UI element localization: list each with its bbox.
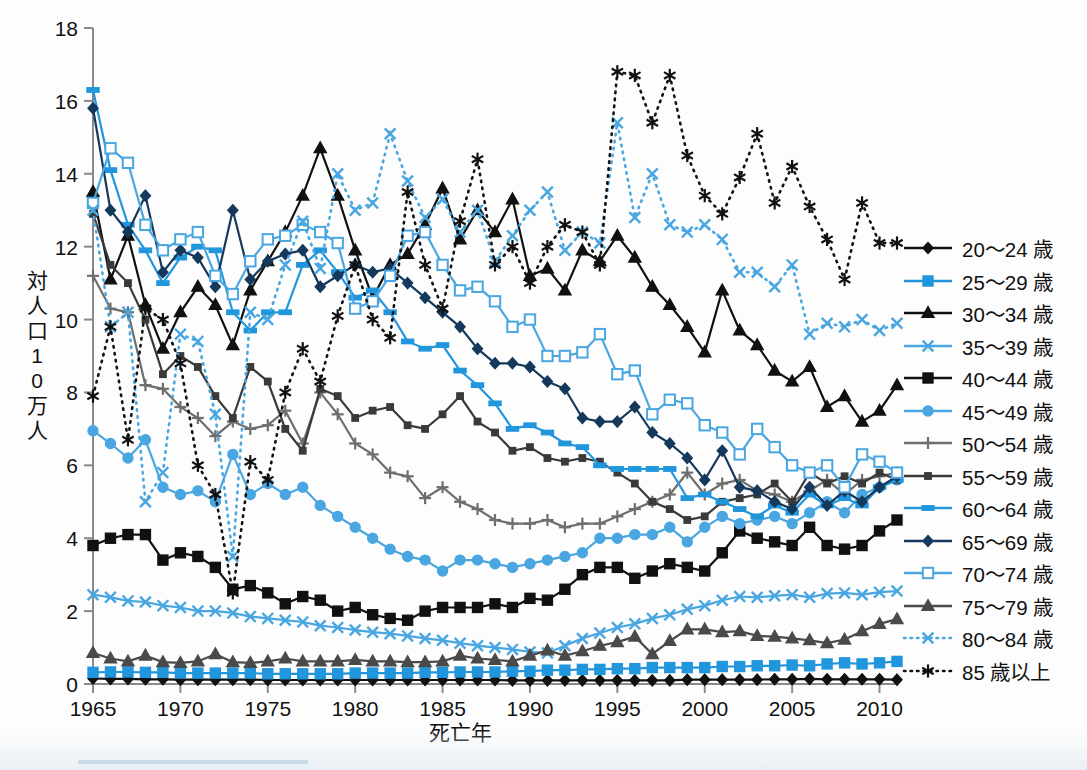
data-point	[664, 219, 675, 230]
data-point	[527, 444, 533, 450]
data-point	[684, 517, 690, 523]
data-point	[387, 404, 393, 410]
data-point	[857, 541, 867, 551]
legend-label-5: 45〜49 歳	[956, 396, 1053, 426]
data-point	[175, 668, 185, 678]
data-point	[402, 231, 412, 241]
legend-marker-diamond-icon	[900, 236, 956, 260]
data-point	[857, 659, 867, 669]
legend-item-5[interactable]: 45〜49 歳	[900, 395, 1087, 428]
data-point	[403, 615, 413, 625]
data-point	[315, 595, 325, 605]
legend-item-8[interactable]: 60〜64 歳	[900, 492, 1087, 525]
data-point	[140, 190, 150, 201]
data-point	[472, 153, 483, 166]
data-point	[821, 401, 833, 412]
data-point	[210, 562, 220, 572]
data-point	[402, 176, 413, 187]
series-4	[88, 515, 902, 625]
data-point	[455, 602, 465, 612]
data-point	[455, 285, 465, 295]
data-point	[734, 625, 746, 636]
data-point	[630, 530, 640, 540]
legend-item-7[interactable]: 55〜59 歳	[900, 460, 1087, 493]
data-point	[507, 602, 517, 612]
data-point	[923, 568, 933, 578]
data-point	[665, 663, 675, 673]
data-point	[560, 584, 570, 594]
data-point	[630, 664, 640, 674]
legend-item-13[interactable]: 85 歳以上	[900, 655, 1087, 688]
data-point	[560, 665, 570, 675]
data-point	[385, 128, 396, 139]
y-tick-label-10: 10	[55, 309, 78, 332]
data-point	[369, 407, 375, 413]
data-point	[612, 369, 622, 379]
data-point	[209, 248, 221, 252]
legend-item-12[interactable]: 80〜84 歳	[900, 622, 1087, 655]
data-point	[298, 592, 308, 602]
data-point	[334, 393, 340, 399]
legend-label-8: 60〜64 歳	[956, 493, 1053, 523]
legend-item-3[interactable]: 35〜39 歳	[900, 330, 1087, 363]
data-point	[630, 573, 640, 583]
data-point	[787, 519, 797, 529]
legend-marker-square-icon	[900, 269, 956, 293]
legend-label-2: 30〜34 歳	[956, 298, 1053, 328]
data-point	[665, 559, 675, 569]
data-point	[88, 667, 98, 677]
data-point	[123, 453, 133, 463]
data-point	[857, 314, 868, 325]
data-point	[751, 514, 763, 518]
data-point	[577, 664, 587, 674]
legend-item-6[interactable]: 50〜54 歳	[900, 427, 1087, 460]
legend-item-0[interactable]: 20〜24 歳	[900, 232, 1087, 265]
data-point	[245, 256, 255, 266]
legend-item-11[interactable]: 75〜79 歳	[900, 590, 1087, 623]
data-point	[525, 205, 536, 216]
data-point	[263, 234, 273, 244]
data-point	[734, 324, 746, 335]
data-point	[787, 660, 797, 670]
data-point	[805, 661, 815, 671]
legend-marker-dash-icon	[900, 496, 956, 520]
data-point	[506, 427, 518, 431]
data-point	[716, 478, 728, 490]
data-point	[349, 244, 361, 255]
data-point	[265, 378, 271, 384]
data-point	[682, 149, 693, 162]
legend-item-4[interactable]: 40〜44 歳	[900, 362, 1087, 395]
data-point	[700, 566, 710, 576]
data-point	[489, 514, 501, 526]
data-point	[839, 390, 851, 401]
legend-marker-plus-icon	[900, 431, 956, 455]
data-point	[594, 628, 605, 639]
data-point	[804, 467, 814, 477]
legend-item-10[interactable]: 70〜74 歳	[900, 557, 1087, 590]
chart-page: 0246810121416181965197019751980198519901…	[0, 0, 1087, 770]
data-point	[822, 460, 832, 470]
data-point	[579, 455, 585, 461]
data-point	[472, 383, 484, 387]
data-point	[664, 635, 676, 646]
data-point	[333, 669, 343, 679]
data-point	[140, 496, 151, 507]
data-point	[367, 198, 378, 209]
series-2	[87, 142, 903, 426]
legend-item-1[interactable]: 25〜29 歳	[900, 265, 1087, 298]
legend-item-9[interactable]: 65〜69 歳	[900, 525, 1087, 558]
legend-item-2[interactable]: 30〜34 歳	[900, 297, 1087, 330]
data-point	[541, 430, 553, 434]
data-point	[595, 562, 605, 572]
data-point	[279, 652, 291, 663]
data-point	[665, 522, 675, 532]
data-point	[192, 459, 203, 472]
data-point	[822, 541, 832, 551]
data-point	[105, 143, 115, 153]
data-point	[787, 460, 797, 470]
data-point	[332, 309, 343, 322]
data-point	[490, 559, 500, 569]
data-point	[559, 521, 571, 533]
data-point	[438, 667, 448, 677]
data-point	[923, 535, 933, 546]
